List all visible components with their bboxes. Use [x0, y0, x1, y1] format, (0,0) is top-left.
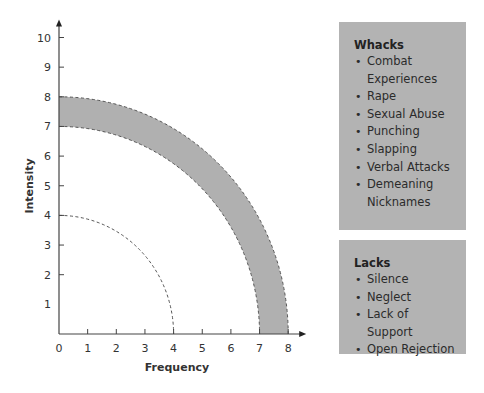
y-tick-label: 9 [44, 61, 51, 74]
inner-threshold-arc [59, 215, 174, 334]
x-tick-label: 6 [227, 342, 234, 355]
lacks-title: Lacks [354, 256, 456, 270]
list-item: Verbal Attacks [354, 159, 456, 177]
lacks-list: Silence Neglect Lack of Support Open Rej… [354, 271, 456, 359]
x-tick-label: 2 [113, 342, 120, 355]
y-tick-label: 4 [44, 209, 51, 222]
x-axis-title: Frequency [145, 361, 209, 374]
y-tick-label: 10 [37, 32, 51, 45]
list-item: Combat Experiences [354, 53, 456, 88]
band-inner-edge-arc [59, 126, 260, 334]
y-tick-label: 5 [44, 180, 51, 193]
x-tick-label: 7 [256, 342, 263, 355]
chart: 01234567812345678910 Frequency Intensity [0, 0, 330, 393]
y-axis-title: Intensity [23, 158, 36, 213]
lacks-legend-box: Lacks Silence Neglect Lack of Support Op… [339, 240, 466, 354]
list-item: Lack of Support [354, 306, 456, 341]
shaded-band [59, 97, 288, 334]
y-tick-label: 2 [44, 269, 51, 282]
x-tick-label: 4 [170, 342, 177, 355]
y-tick-label: 3 [44, 239, 51, 252]
list-item: Silence [354, 271, 456, 289]
x-tick-label: 3 [141, 342, 148, 355]
x-tick-label: 0 [56, 342, 63, 355]
list-item: Rape [354, 88, 456, 106]
whacks-title: Whacks [354, 38, 456, 52]
list-item: Slapping [354, 141, 456, 159]
x-tick-label: 8 [285, 342, 292, 355]
list-item: Open Rejection [354, 341, 456, 359]
y-tick-label: 8 [44, 91, 51, 104]
list-item: Punching [354, 123, 456, 141]
list-item: Demeaning Nicknames [354, 176, 456, 211]
list-item: Sexual Abuse [354, 106, 456, 124]
list-item: Neglect [354, 289, 456, 307]
x-axis-arrow-icon [299, 331, 306, 337]
x-tick-label: 1 [84, 342, 91, 355]
y-tick-label: 6 [44, 150, 51, 163]
y-axis-arrow-icon [56, 20, 62, 27]
x-tick-label: 5 [199, 342, 206, 355]
y-tick-label: 1 [44, 298, 51, 311]
whacks-list: Combat Experiences Rape Sexual Abuse Pun… [354, 53, 456, 211]
y-tick-label: 7 [44, 120, 51, 133]
whacks-legend-box: Whacks Combat Experiences Rape Sexual Ab… [339, 22, 466, 230]
